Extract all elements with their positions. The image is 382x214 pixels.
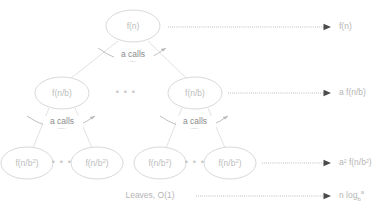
right-label-third: a² f(n/b²) [339,157,372,167]
call-arc-right: a calls [160,116,228,128]
edge-root-to-left-child [70,41,118,79]
annotation-arrow-third-head [324,160,332,166]
call-arc-right-label: a calls [183,116,207,126]
annotation-arrow-root-head [324,24,332,30]
recursion-tree-diagram: f(n) a calls f(n/b) f(n/b) • • • a calls… [0,0,382,214]
node-leaf-2[interactable]: f(n/b2) [71,147,123,179]
leaves-caption: Leaves, O(1) [125,190,174,200]
annotation-arrow-leaves-head [324,193,332,199]
right-label-root: f(n) [339,21,352,31]
right-label-second: a f(n/b) [339,87,366,97]
ellipsis-second-level: • • • [116,87,136,97]
ellipsis-leaf-right: • • • [185,157,205,167]
node-root[interactable]: f(n) [106,10,160,42]
annotation-arrow-third [262,160,331,166]
node-left-child-label: f(n/b) [52,88,72,98]
ellipsis-leaf-left: • • • [52,157,72,167]
node-leaf-2-label: f(n/b2) [85,158,108,169]
node-leaf-1-label: f(n/b2) [15,158,38,169]
annotation-arrow-root [168,24,331,30]
node-leaf-1[interactable]: f(n/b2) [1,147,53,179]
node-leaf-3[interactable]: f(n/b2) [134,147,186,179]
annotation-arrow-second [228,90,331,96]
node-leaf-4[interactable]: f(n/b2) [204,147,256,179]
node-leaf-3-label: f(n/b2) [148,158,171,169]
node-leaf-4-label: f(n/b2) [218,158,241,169]
call-arc-root-label: a calls [121,49,145,59]
call-arc-root: a calls [98,48,166,61]
node-right-child-label: f(n/b) [185,88,205,98]
call-arc-left-label: a calls [50,116,74,126]
call-arc-left: a calls [27,116,95,128]
annotation-arrow-leaves [196,193,331,199]
right-label-leaves: n logba [339,189,365,202]
node-left-child[interactable]: f(n/b) [35,77,89,109]
node-right-child[interactable]: f(n/b) [168,77,222,109]
node-root-label: f(n) [127,21,140,31]
annotation-arrow-second-head [324,90,332,96]
